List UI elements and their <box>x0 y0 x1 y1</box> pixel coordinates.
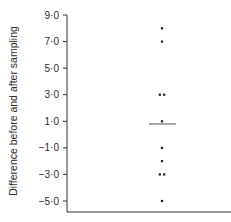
y-tick-label: −3·0 <box>39 169 60 180</box>
y-axis-label: Difference before and after sampling <box>7 26 19 196</box>
y-tick-label: 1·0 <box>45 116 60 127</box>
dot-plot-chart: Difference before and after sampling 9·0… <box>0 0 231 222</box>
y-axis: 9·07·05·03·01·0−1·0−3·0−5·0 <box>39 10 67 213</box>
y-tick-label: −1·0 <box>39 142 60 153</box>
data-point <box>163 173 165 175</box>
data-point <box>163 94 165 96</box>
data-point <box>161 120 163 122</box>
data-point <box>161 40 163 42</box>
data-point <box>161 147 163 149</box>
y-tick-label: 7·0 <box>45 36 60 47</box>
y-tick-label: 5·0 <box>45 63 60 74</box>
y-axis-title: Difference before and after sampling <box>7 26 19 196</box>
y-tick-label: 3·0 <box>45 89 60 100</box>
data-point <box>161 27 163 29</box>
data-point <box>159 94 161 96</box>
data-points <box>159 27 166 202</box>
data-point <box>159 173 161 175</box>
data-point <box>161 160 163 162</box>
y-tick-label: −5·0 <box>39 196 60 207</box>
data-point <box>161 200 163 202</box>
y-tick-label: 9·0 <box>45 10 60 21</box>
